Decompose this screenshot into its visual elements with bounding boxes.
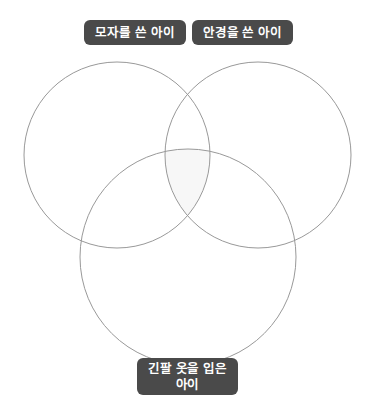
set-label-glasses: 안경을 쓴 아이 xyxy=(192,20,293,45)
set-label-hat: 모자를 쓴 아이 xyxy=(84,20,186,45)
set-label-long-sleeve: 긴팔 옷을 입은 아이 xyxy=(137,358,238,395)
triple-intersection-region xyxy=(80,149,296,365)
venn-diagram-canvas xyxy=(0,0,375,414)
triple-intersection-fill xyxy=(80,149,296,365)
venn-diagram-page: 모자를 쓴 아이 안경을 쓴 아이 긴팔 옷을 입은 아이 xyxy=(0,0,375,414)
